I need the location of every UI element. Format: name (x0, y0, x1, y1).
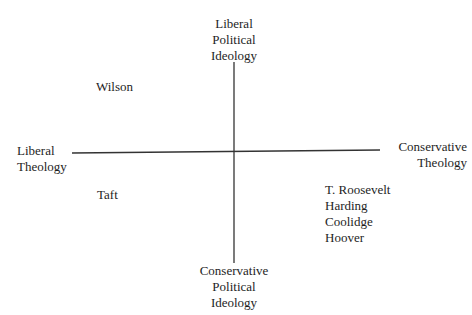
president-name: Wilson (96, 79, 133, 95)
label-line: Theology (372, 155, 467, 171)
president-name: T. Roosevelt (325, 182, 390, 198)
label-line: Liberal (17, 143, 67, 159)
label-line: Liberal (194, 16, 274, 32)
label-line: Political (194, 32, 274, 48)
quadrant-item-wilson: Wilson (96, 79, 133, 95)
label-line: Theology (17, 159, 67, 175)
label-line: Conservative (184, 263, 284, 279)
quadrant-group-conservative: T. Roosevelt Harding Coolidge Hoover (325, 182, 390, 246)
horizontal-axis-theology (72, 150, 380, 153)
president-name: Coolidge (325, 214, 390, 230)
quadrant-item-taft: Taft (97, 187, 118, 203)
president-name: Hoover (325, 230, 390, 246)
label-line: Ideology (194, 48, 274, 64)
quadrant-diagram: Liberal Political Ideology Conservative … (0, 0, 472, 315)
label-line: Conservative (372, 139, 467, 155)
president-name: Harding (325, 198, 390, 214)
axis-label-conservative-theology: Conservative Theology (372, 139, 467, 171)
president-name: Taft (97, 187, 118, 203)
axis-label-liberal-theology: Liberal Theology (17, 143, 67, 175)
label-line: Political (184, 279, 284, 295)
axis-label-liberal-political-ideology: Liberal Political Ideology (194, 16, 274, 64)
axis-label-conservative-political-ideology: Conservative Political Ideology (184, 263, 284, 311)
label-line: Ideology (184, 295, 284, 311)
